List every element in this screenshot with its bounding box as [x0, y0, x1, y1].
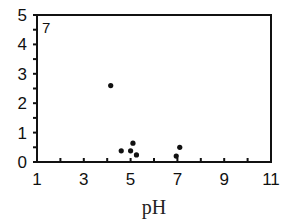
x-tick-label: 5	[126, 170, 135, 189]
x-tick-labels: 1357911	[32, 170, 280, 189]
data-point	[119, 148, 124, 153]
data-point	[134, 152, 139, 157]
scatter-chart: 1357911 012345 7 pH	[0, 0, 294, 223]
x-tick-label: 7	[173, 170, 182, 189]
data-point	[130, 141, 135, 146]
data-point	[177, 145, 182, 150]
y-tick-label: 5	[18, 6, 27, 25]
axis-ticks	[33, 15, 271, 162]
x-tick-label: 1	[32, 170, 41, 189]
plot-frame	[37, 15, 271, 162]
panel-label: 7	[42, 19, 50, 36]
y-tick-label: 1	[18, 124, 27, 143]
data-points	[108, 83, 182, 159]
data-point	[108, 83, 113, 88]
y-tick-label: 3	[18, 65, 27, 84]
x-axis-title: pH	[142, 196, 166, 219]
data-point	[174, 154, 179, 159]
y-tick-label: 0	[18, 153, 27, 172]
y-tick-labels: 012345	[18, 6, 27, 172]
x-tick-label: 11	[262, 170, 280, 189]
data-point	[128, 148, 133, 153]
x-tick-label: 3	[79, 170, 88, 189]
x-tick-label: 9	[219, 170, 228, 189]
y-tick-label: 2	[18, 94, 27, 113]
y-tick-label: 4	[18, 35, 27, 54]
